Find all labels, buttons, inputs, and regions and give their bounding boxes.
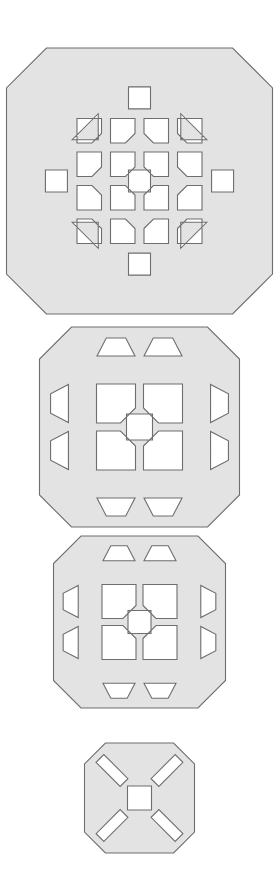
shape-layer <box>7 48 273 853</box>
lattice-large-outline <box>7 48 273 314</box>
lattice-tiny-outline <box>85 743 195 853</box>
lattice-small-outline <box>54 536 226 708</box>
lattice-medium <box>40 327 240 527</box>
lattice-figure-svg <box>0 0 278 893</box>
figure-canvas <box>0 0 278 893</box>
lattice-medium-outline <box>40 327 240 527</box>
lattice-tiny <box>85 743 195 853</box>
lattice-large <box>7 48 273 314</box>
lattice-small <box>54 536 226 708</box>
